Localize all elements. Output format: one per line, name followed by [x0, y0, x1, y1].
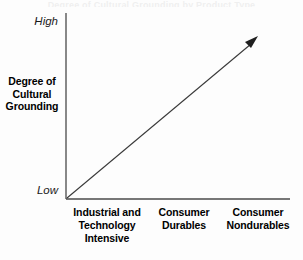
x-cat-0-line-2: Technology — [57, 219, 157, 232]
y-axis-title-line-3: Grounding — [2, 100, 62, 113]
x-cat-1-line-2: Durables — [144, 219, 224, 232]
y-axis-title-line-1: Degree of — [2, 75, 62, 88]
y-axis-title: Degree of Cultural Grounding — [2, 75, 62, 113]
x-cat-0-line-1: Industrial and — [57, 206, 157, 219]
trend-arrow-head-icon — [245, 36, 258, 48]
y-axis-title-line-2: Cultural — [2, 88, 62, 101]
x-axis-category-consumer-nondurables: Consumer Nondurables — [214, 206, 302, 232]
cultural-grounding-figure: Degree of Cultural Grounding by Product … — [0, 0, 303, 260]
y-axis-low-label: Low — [8, 184, 58, 196]
x-axis-category-industrial: Industrial and Technology Intensive — [57, 206, 157, 245]
y-axis-high-label: High — [8, 15, 58, 27]
x-cat-2-line-2: Nondurables — [214, 219, 302, 232]
x-cat-0-line-3: Intensive — [57, 232, 157, 245]
x-cat-1-line-1: Consumer — [144, 206, 224, 219]
x-cat-2-line-1: Consumer — [214, 206, 302, 219]
trend-arrow-line — [67, 44, 251, 198]
x-axis-category-consumer-durables: Consumer Durables — [144, 206, 224, 232]
